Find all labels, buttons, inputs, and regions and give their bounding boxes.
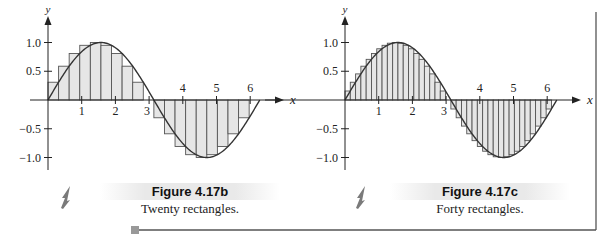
riemann-rectangle — [514, 100, 519, 151]
riemann-rectangle — [419, 59, 424, 100]
riemann-rectangle — [541, 100, 546, 118]
riemann-rectangle — [59, 66, 70, 100]
x-tick-label: 3 — [144, 104, 150, 118]
riemann-rectangle — [504, 100, 509, 157]
riemann-rectangle — [361, 66, 366, 100]
y-axis-arrow-icon — [342, 16, 349, 25]
figure-subtitle: Twenty rectangles. — [100, 201, 280, 217]
figure-title: Figure 4.17b — [100, 183, 280, 200]
riemann-rectangle — [186, 100, 197, 155]
riemann-rectangle — [101, 45, 112, 100]
y-axis-arrow-icon — [45, 16, 52, 25]
riemann-rectangle — [530, 100, 535, 134]
y-axis-label: y — [45, 3, 51, 15]
riemann-rectangle — [196, 100, 207, 158]
riemann-rectangle — [175, 100, 186, 147]
riemann-rectangle — [207, 100, 218, 155]
riemann-rectangle — [477, 100, 482, 147]
y-tick-label: 0.5 — [26, 64, 41, 78]
riemann-rectangle — [520, 100, 525, 147]
riemann-rectangle — [398, 43, 403, 100]
riemann-rectangle — [483, 100, 488, 151]
y-tick-label: −0.5 — [316, 122, 338, 136]
riemann-rectangle — [377, 49, 382, 100]
riemann-rectangle — [525, 100, 530, 141]
riemann-rectangle — [430, 74, 435, 100]
riemann-rectangle — [414, 53, 419, 100]
x-tick-label: 2 — [112, 104, 118, 118]
riemann-rectangle — [112, 53, 123, 100]
riemann-rectangle — [387, 43, 392, 100]
riemann-rectangle — [80, 45, 91, 100]
y-axis-label: y — [342, 3, 348, 15]
riemann-rectangle — [536, 100, 541, 126]
riemann-rectangle — [403, 45, 408, 100]
figure-subtitle: Forty rectangles. — [390, 201, 570, 217]
figure-caption-c: Figure 4.17c Forty rectangles. — [390, 183, 570, 217]
y-tick-label: 0.5 — [323, 64, 338, 78]
x-tick-label: 4 — [180, 81, 186, 95]
y-tick-label: −0.5 — [19, 122, 41, 136]
x-tick-label: 1 — [376, 104, 382, 118]
figure-caption-b: Figure 4.17b Twenty rectangles. — [100, 183, 280, 217]
y-tick-label: −1.0 — [316, 151, 338, 165]
riemann-rectangle — [393, 43, 398, 101]
x-tick-label: 1 — [79, 104, 85, 118]
riemann-rectangle — [133, 82, 144, 100]
riemann-rectangle — [467, 100, 472, 134]
riemann-rectangle — [164, 100, 175, 134]
x-tick-label: 6 — [247, 81, 253, 95]
riemann-rectangle — [440, 91, 445, 100]
riemann-rectangle — [435, 82, 440, 100]
x-tick-label: 4 — [477, 81, 483, 95]
riemann-rectangle — [424, 66, 429, 100]
x-tick-label: 3 — [441, 104, 447, 118]
riemann-rectangle — [69, 53, 80, 100]
riemann-rectangle — [239, 100, 250, 118]
y-tick-label: −1.0 — [19, 151, 41, 165]
pointer-arrow-icon — [61, 186, 70, 209]
x-tick-label: 2 — [409, 104, 415, 118]
riemann-rectangle — [217, 100, 228, 147]
x-tick-label: 5 — [214, 81, 220, 95]
figure-title: Figure 4.17c — [390, 183, 570, 200]
x-tick-label: 6 — [544, 81, 550, 95]
riemann-rectangle — [493, 100, 498, 157]
x-axis-arrow-icon — [572, 97, 581, 104]
riemann-rectangle — [382, 45, 387, 100]
frame-marker — [131, 226, 139, 234]
riemann-rectangle — [409, 49, 414, 100]
x-tick-label: 5 — [511, 81, 517, 95]
riemann-rectangle — [228, 100, 239, 134]
y-tick-label: 1.0 — [323, 36, 338, 50]
riemann-rectangle — [488, 100, 493, 155]
riemann-rectangle — [90, 43, 101, 101]
pointer-arrow-icon — [356, 186, 365, 209]
x-axis-label: x — [586, 92, 593, 107]
riemann-rectangle — [456, 100, 461, 118]
riemann-rectangle — [509, 100, 514, 155]
riemann-rectangle — [371, 53, 376, 100]
riemann-rectangle — [350, 82, 355, 100]
riemann-rectangle — [122, 66, 133, 100]
riemann-rectangle — [499, 100, 504, 158]
y-tick-label: 1.0 — [26, 36, 41, 50]
